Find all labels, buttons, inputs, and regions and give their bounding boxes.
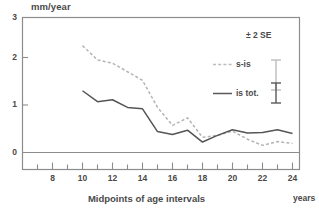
y-tick-label-1: 1 <box>3 99 17 109</box>
x-tick-label-12: 12 <box>103 173 122 183</box>
y-tick-label-3: 3 <box>3 12 17 22</box>
x-tick-label-18: 18 <box>193 173 212 183</box>
x-tick-label-20: 20 <box>223 173 242 183</box>
legend-header: ± 2 SE <box>246 30 271 40</box>
x-tick-label-14: 14 <box>133 173 152 183</box>
x-tick-label-10: 10 <box>73 173 92 183</box>
x-tick-label-8: 8 <box>43 173 62 183</box>
x-tick-label-22: 22 <box>253 173 272 183</box>
y-tick-label-2: 2 <box>3 52 17 62</box>
x-tick-marks <box>38 163 293 170</box>
x-tick-label-16: 16 <box>163 173 182 183</box>
series-is-tot <box>83 91 293 142</box>
y-tick-label-0: 0 <box>3 147 17 157</box>
x-axis-units-label: years <box>293 193 319 203</box>
x-axis-label: Midpoints of age intervals <box>0 193 319 204</box>
x-tick-label-24: 24 <box>283 173 302 183</box>
legend-label-is-tot: is tot. <box>236 88 259 98</box>
y-tick-marks <box>23 58 28 106</box>
chart-figure: mm/year <box>0 0 319 210</box>
legend-label-s-is: s-is <box>236 59 251 69</box>
legend-error-bar-is-tot <box>271 83 281 103</box>
